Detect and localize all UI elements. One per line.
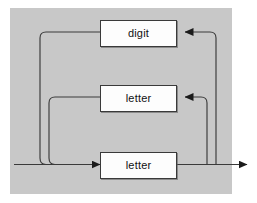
node-letter-middle-label: letter (126, 93, 152, 104)
node-letter-middle[interactable]: letter (100, 85, 177, 112)
diagram-canvas: digit letter letter (0, 0, 257, 203)
loop-inner-right-rail (185, 97, 207, 165)
loop-outer-right-rail (185, 32, 216, 165)
node-letter-bottom-label: letter (126, 160, 152, 171)
node-digit[interactable]: digit (100, 20, 177, 47)
loop-inner-left-rail (49, 97, 100, 165)
node-digit-label: digit (128, 28, 149, 39)
node-letter-bottom[interactable]: letter (100, 152, 177, 179)
